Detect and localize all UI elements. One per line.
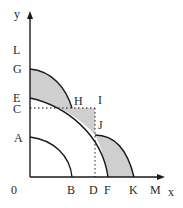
label-d: D (89, 183, 98, 197)
label-b: B (67, 183, 75, 197)
origin-label: 0 (11, 183, 17, 197)
x-axis-arrow-icon (157, 174, 165, 180)
label-h: H (74, 94, 83, 108)
label-f: F (104, 183, 111, 197)
label-i: I (98, 93, 102, 107)
label-k: K (129, 183, 138, 197)
label-m: M (150, 183, 161, 197)
label-l: L (13, 43, 20, 57)
label-j: J (98, 118, 103, 132)
y-axis-arrow-icon (27, 11, 33, 19)
label-g: G (13, 62, 22, 76)
shaded-region-upper (30, 69, 95, 135)
label-c: C (13, 102, 21, 116)
ppf-diagram: y L G E C A 0 B D F K M x H I J (0, 0, 183, 208)
curve-ab (30, 137, 72, 177)
y-axis-label: y (14, 7, 20, 21)
x-axis-label: x (168, 185, 174, 199)
label-a: A (14, 131, 23, 145)
